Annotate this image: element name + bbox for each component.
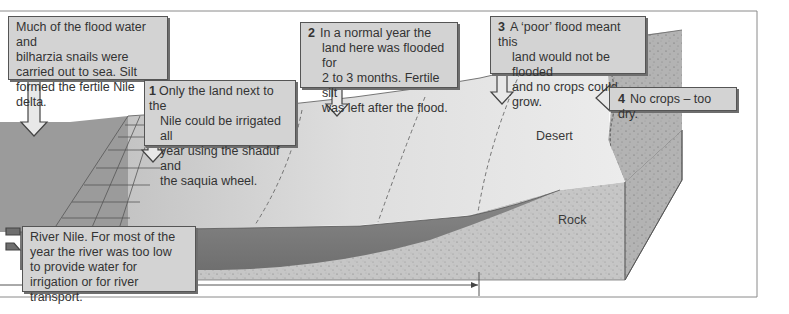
callout-line: Only the land next to the	[149, 84, 274, 113]
callout-number: 4	[618, 92, 625, 106]
callout-river-nile: River Nile. For most of the year the riv…	[22, 226, 196, 292]
callout-line: Nile could be irrigated all	[149, 114, 289, 144]
callout-line: land here was flooded for	[308, 41, 451, 71]
callout-delta: Much of the flood water and bilharzia sn…	[8, 16, 168, 80]
callout-line: carried out to sea. Silt	[16, 65, 161, 80]
callout-line: land would not be flooded	[498, 50, 639, 80]
callout-number: 2	[308, 26, 315, 40]
callout-normal-flood: 2In a normal year the land here was floo…	[300, 22, 458, 88]
label-rock: Rock	[558, 213, 586, 227]
label-desert: Desert	[536, 129, 573, 143]
callout-line: A ‘poor’ flood meant this	[498, 20, 620, 49]
callout-line: irrigation or for river transport.	[30, 275, 189, 305]
callout-line: year the river was too low	[30, 245, 189, 260]
callout-line: year using the shaduf and	[149, 144, 289, 174]
callout-line: was left after the flood.	[308, 101, 451, 116]
arrow-left-icon	[6, 243, 20, 250]
callout-line: River Nile. For most of the	[30, 230, 189, 245]
callout-line: In a normal year the	[320, 26, 431, 40]
callout-line: the saquia wheel.	[149, 174, 289, 189]
callout-line: Much of the flood water and	[16, 20, 161, 50]
callout-line: bilharzia snails were	[16, 50, 161, 65]
callout-line: to provide water for	[30, 260, 189, 275]
callout-irrigated: 1Only the land next to the Nile could be…	[144, 80, 296, 146]
arrow-left-icon	[6, 228, 20, 235]
callout-line: 2 to 3 months. Fertile silt	[308, 71, 451, 101]
callout-line: formed the fertile Nile delta.	[16, 80, 161, 110]
callout-number: 1	[149, 84, 156, 98]
callout-number: 3	[498, 20, 505, 34]
callout-too-dry: 4No crops – too dry.	[609, 87, 737, 111]
callout-poor-flood: 3A ‘poor’ flood meant this land would no…	[490, 16, 646, 74]
delta-water	[0, 116, 128, 232]
